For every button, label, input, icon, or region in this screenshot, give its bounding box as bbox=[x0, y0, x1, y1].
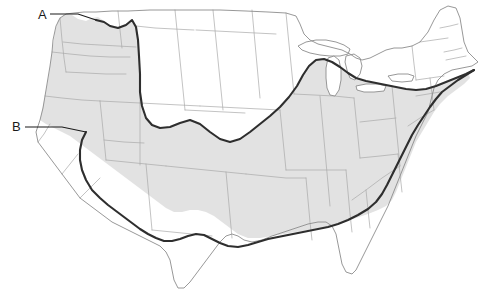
lake-ontario bbox=[388, 74, 414, 82]
us-reference-map: AB bbox=[0, 0, 489, 303]
lake-erie bbox=[356, 84, 386, 92]
map-label-a: A bbox=[38, 7, 47, 22]
map-figure: AB bbox=[0, 0, 489, 303]
map-label-b: B bbox=[12, 119, 21, 134]
